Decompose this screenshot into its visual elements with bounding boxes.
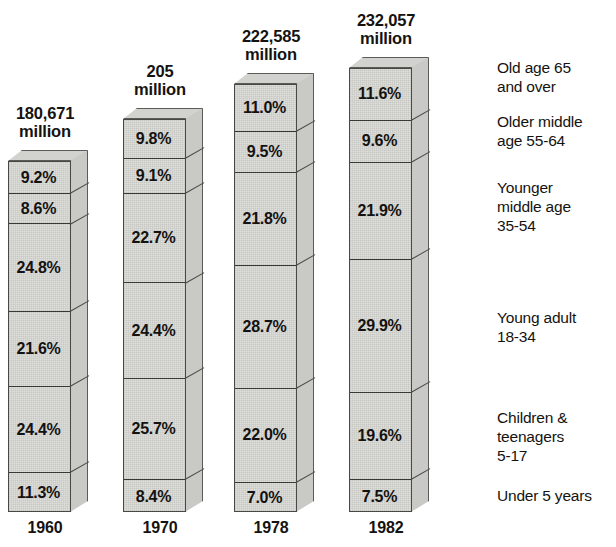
column-total-1960: 180,671 million <box>2 104 88 140</box>
segment-label: 9.2% <box>9 169 70 187</box>
legend-line: teenagers <box>497 427 616 446</box>
legend-line: 5-17 <box>497 446 616 465</box>
segment-old-age-65-and-over: 9.2% <box>9 162 70 194</box>
segment-children-teenagers: 24.4% <box>9 387 70 473</box>
legend-line: Children & <box>497 408 616 427</box>
legend-line: Older middle <box>497 112 616 131</box>
segment-label: 24.4% <box>9 421 70 439</box>
population-age-distribution-chart: 180,671 million 9.2% 8.6% 24.8% 21.6% <box>0 0 616 547</box>
bar-front-face: 9.8% 9.1% 22.7% 24.4% 25.7% 8.4% <box>123 119 186 512</box>
segment-under-5-years: 8.4% <box>124 480 185 513</box>
segment-young-adult: 29.9% <box>350 260 411 393</box>
segment-old-age-65-and-over: 9.8% <box>124 120 185 159</box>
year-label-1982: 1982 <box>343 519 429 537</box>
column-total-1978: 222,585 million <box>228 27 314 63</box>
segment-young-adult: 24.4% <box>124 284 185 380</box>
segment-label: 9.1% <box>124 167 185 185</box>
segment-under-5-years: 7.0% <box>235 483 296 513</box>
column-1970: 205 million 9.8% 9.1% 22.7% 24.4% <box>117 0 203 547</box>
segment-younger-middle-age: 24.8% <box>9 225 70 312</box>
segment-older-middle-age: 9.1% <box>124 159 185 195</box>
segment-label: 29.9% <box>350 317 411 335</box>
segment-younger-middle-age: 21.8% <box>235 173 296 266</box>
legend-line: 35-54 <box>497 216 616 235</box>
legend-item-younger-middle-age-35-54: Younger middle age 35-54 <box>497 178 616 235</box>
bar-side-face <box>296 73 314 512</box>
segment-label: 22.0% <box>235 426 296 444</box>
segment-label: 25.7% <box>124 420 185 438</box>
segment-children-teenagers: 25.7% <box>124 379 185 480</box>
legend-line: 18-34 <box>497 327 616 346</box>
segment-old-age-65-and-over: 11.0% <box>235 85 296 132</box>
legend-item-older-middle-age-55-64: Older middle age 55-64 <box>497 112 616 150</box>
bar-1970: 9.8% 9.1% 22.7% 24.4% 25.7% 8.4% <box>123 108 203 513</box>
segment-older-middle-age: 8.6% <box>9 194 70 224</box>
total-unit: million <box>228 45 314 63</box>
bar-1982: 11.6% 9.6% 21.9% 29.9% 19.6% 7.5% <box>349 57 429 513</box>
legend-line: Younger <box>497 178 616 197</box>
total-value: 180,671 <box>2 104 88 122</box>
bar-front-face: 9.2% 8.6% 24.8% 21.6% 24.4% 11.3% <box>8 161 71 512</box>
segment-label: 21.9% <box>350 202 411 220</box>
segment-label: 11.3% <box>9 484 70 502</box>
segment-label: 7.0% <box>235 489 296 507</box>
segment-label: 11.6% <box>350 85 411 103</box>
bar-1960: 9.2% 8.6% 24.8% 21.6% 24.4% 11.3% <box>8 150 88 513</box>
segment-label: 21.6% <box>9 340 70 358</box>
total-unit: million <box>2 122 88 140</box>
bar-side-face <box>70 150 88 512</box>
bar-side-face <box>411 57 429 512</box>
segment-older-middle-age: 9.5% <box>235 132 296 173</box>
total-unit: million <box>117 80 203 98</box>
legend-line: middle age <box>497 197 616 216</box>
bar-1978: 11.0% 9.5% 21.8% 28.7% 22.0% 7.0% <box>234 73 314 513</box>
segment-younger-middle-age: 21.9% <box>350 163 411 260</box>
legend-line: and over <box>497 77 616 96</box>
bar-front-face: 11.0% 9.5% 21.8% 28.7% 22.0% 7.0% <box>234 84 297 512</box>
legend-item-children-teenagers-5-17: Children & teenagers 5-17 <box>497 408 616 465</box>
year-label-1978: 1978 <box>228 519 314 537</box>
segment-label: 7.5% <box>350 488 411 506</box>
legend-line: age 55-64 <box>497 131 616 150</box>
segment-old-age-65-and-over: 11.6% <box>350 69 411 121</box>
segment-under-5-years: 7.5% <box>350 480 411 513</box>
column-1960: 180,671 million 9.2% 8.6% 24.8% 21.6% <box>2 0 88 547</box>
legend-line: Young adult <box>497 308 616 327</box>
column-total-1970: 205 million <box>117 62 203 98</box>
legend-line: Under 5 years <box>497 486 616 505</box>
segment-under-5-years: 11.3% <box>9 473 70 513</box>
legend-item-under-5-years: Under 5 years <box>497 486 616 505</box>
segment-label: 11.0% <box>235 99 296 117</box>
column-1982: 232,057 million 11.6% 9.6% 21.9% 29.9% <box>343 0 429 547</box>
bar-side-face <box>185 108 203 512</box>
total-value: 232,057 <box>343 11 429 29</box>
segment-label: 8.6% <box>9 200 70 218</box>
segment-label: 8.4% <box>124 488 185 506</box>
segment-label: 9.5% <box>235 143 296 161</box>
total-value: 205 <box>117 62 203 80</box>
segment-label: 9.6% <box>350 132 411 150</box>
segment-label: 9.8% <box>124 130 185 148</box>
column-1978: 222,585 million 11.0% 9.5% 21.8% 28.7% <box>228 0 314 547</box>
total-unit: million <box>343 29 429 47</box>
legend: Old age 65 and over Older middle age 55-… <box>497 0 616 547</box>
total-value: 222,585 <box>228 27 314 45</box>
segment-label: 22.7% <box>124 229 185 247</box>
segment-young-adult: 21.6% <box>9 312 70 388</box>
year-label-1970: 1970 <box>117 519 203 537</box>
segment-label: 19.6% <box>350 427 411 445</box>
segment-label: 24.8% <box>9 259 70 277</box>
segment-older-middle-age: 9.6% <box>350 121 411 164</box>
column-total-1982: 232,057 million <box>343 11 429 47</box>
segment-younger-middle-age: 22.7% <box>124 194 185 283</box>
year-label-1960: 1960 <box>2 519 88 537</box>
legend-item-old-age-65-and-over: Old age 65 and over <box>497 58 616 96</box>
segment-children-teenagers: 19.6% <box>350 393 411 480</box>
legend-line: Old age 65 <box>497 58 616 77</box>
segment-children-teenagers: 22.0% <box>235 389 296 483</box>
segment-label: 28.7% <box>235 318 296 336</box>
segment-label: 21.8% <box>235 210 296 228</box>
bar-front-face: 11.6% 9.6% 21.9% 29.9% 19.6% 7.5% <box>349 68 412 512</box>
segment-label: 24.4% <box>124 322 185 340</box>
segment-young-adult: 28.7% <box>235 266 296 389</box>
